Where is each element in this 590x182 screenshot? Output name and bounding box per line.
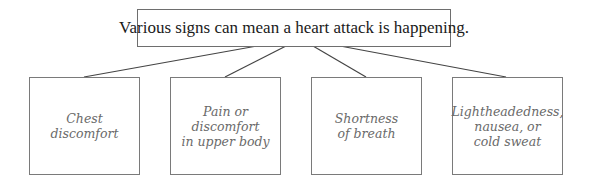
child-node-line: cold sweat: [452, 134, 564, 149]
child-node-line: Chest: [51, 111, 119, 126]
child-node-lightheadedness: Lightheadedness, nausea, or cold sweat: [452, 77, 563, 175]
root-node: Various signs can mean a heart attack is…: [137, 9, 451, 47]
child-node-chest-discomfort: Chest discomfort: [29, 77, 140, 175]
heart-attack-signs-diagram: Various signs can mean a heart attack is…: [0, 0, 590, 182]
child-node-line: Shortness: [335, 111, 398, 126]
child-node-upper-body-pain: Pain or discomfort in upper body: [170, 77, 281, 175]
root-node-label: Various signs can mean a heart attack is…: [119, 18, 469, 38]
connector-line-3: [313, 46, 366, 77]
child-node-line: of breath: [335, 126, 398, 141]
child-node-shortness-of-breath: Shortness of breath: [311, 77, 422, 175]
child-node-line: Lightheadedness,: [452, 104, 564, 119]
child-node-line: discomfort: [51, 126, 119, 141]
child-node-line: Pain or discomfort: [171, 104, 280, 134]
child-node-line: in upper body: [171, 134, 280, 149]
child-node-line: nausea, or: [452, 119, 564, 134]
connector-line-1: [84, 46, 257, 77]
connector-line-4: [340, 46, 506, 77]
